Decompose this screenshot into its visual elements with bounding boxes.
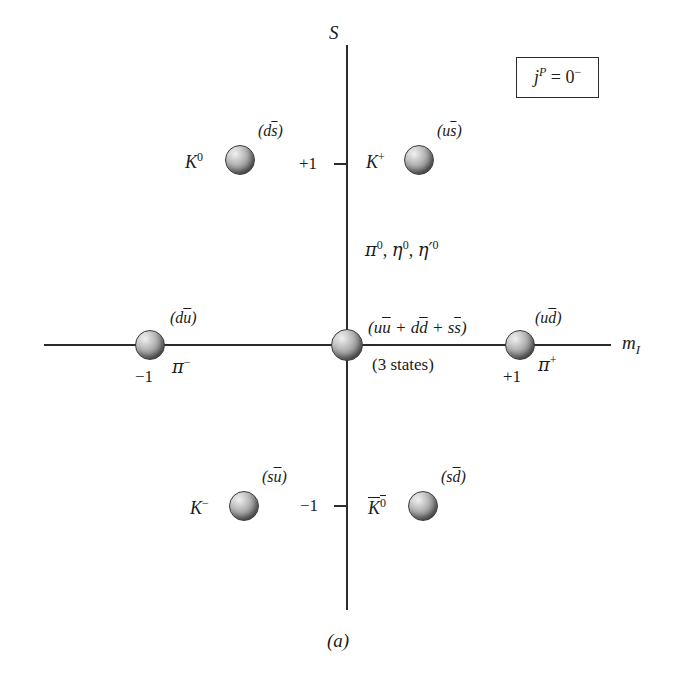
pi-minus-charge: − [184,355,191,369]
particle-marker-k-zero [225,145,255,175]
particle-label-pi-minus: π− [172,355,191,378]
y-tick-label-plus-one: +1 [299,154,317,174]
pi-minus-quark-post: ) [191,309,196,326]
pi-plus-quark-post: ) [556,309,561,326]
jp-parity: − [575,65,582,79]
origin-states-note: (3 states) [372,355,434,375]
eta-prime-charge: 0 [433,238,439,252]
quark-content-pi-minus: (du) [170,309,197,327]
quark-content-origin: (uu + dd + ss) [368,318,467,338]
x-tick-label-plus-one: +1 [503,367,521,387]
k-zero-bar-quark-pre: (s [441,468,453,485]
x-axis-label-main: m [622,332,636,353]
eta-zero-symbol: η [392,239,403,260]
particle-marker-pi-minus [135,330,165,360]
k-minus-quark-bar: u [274,468,282,485]
eta-prime-symbol: η′ [418,239,433,260]
quark-content-k-plus: (us) [437,122,462,140]
origin-quark-dbar: d [419,318,428,337]
origin-quark-close: ) [461,318,467,337]
k-plus-quark-post: ) [457,122,462,139]
strangeness-axis [346,45,348,610]
k-zero-quark-post: ) [278,122,283,139]
pi-minus-quark-pre: (d [170,309,183,326]
particle-marker-origin [331,329,363,361]
k-minus-name: K [190,498,202,518]
origin-quark-sbar: s [454,318,461,337]
particle-marker-k-minus [229,491,259,521]
particle-marker-k-plus [404,145,434,175]
y-tick-plus-one [334,163,347,165]
neutral-states-label: π0, η0, η′0 [365,238,439,261]
figure-caption: (a) [0,630,676,652]
k-minus-quark-post: ) [282,468,287,485]
k-zero-bar-name: K [368,498,380,518]
origin-quark-plus-2: + s [428,318,455,337]
y-tick-minus-one [334,505,347,507]
k-plus-charge: + [378,150,385,164]
y-axis-label: S [329,22,339,44]
k-zero-bar-quark-bar: d [453,468,461,485]
k-zero-charge: 0 [197,150,203,164]
particle-label-k-minus: K− [190,496,209,519]
x-axis-label-subscript: I [636,342,640,357]
pi-minus-name: π [172,356,184,377]
quark-content-pi-plus: (ud) [535,309,562,327]
k-zero-quark-pre: (d [258,122,271,139]
quantum-numbers-box: jP = 0− [516,57,599,98]
x-tick-label-minus-one: −1 [135,367,153,387]
quark-content-k-zero-bar: (sd) [441,468,466,486]
meson-nonet-figure: S mI +1 −1 −1 +1 jP = 0− K0 (ds) K+ (us)… [0,0,676,690]
y-tick-label-minus-one: −1 [300,496,318,516]
quark-content-k-zero: (ds) [258,122,283,140]
particle-label-pi-plus: π+ [538,353,557,376]
pi-zero-symbol: π [365,239,377,260]
pi-plus-name: π [538,354,550,375]
quark-content-k-minus: (su) [262,468,287,486]
particle-label-k-zero-bar: K0 [368,496,386,519]
neutral-sep-2: , [409,240,418,260]
origin-quark-plus-1: + d [391,318,419,337]
origin-quark-open: (u [368,318,382,337]
origin-quark-ubar: u [382,318,391,337]
particle-marker-pi-plus [505,330,535,360]
jp-equals: = 0 [546,67,574,87]
x-axis-label: mI [622,332,640,358]
particle-label-k-zero: K0 [185,150,203,173]
neutral-sep-1: , [383,240,392,260]
k-minus-charge: − [202,496,209,510]
k-plus-quark-pre: (u [437,122,450,139]
k-zero-bar-charge: 0 [380,496,386,510]
particle-marker-k-zero-bar [408,491,438,521]
particle-label-k-plus: K+ [366,150,385,173]
pi-plus-charge: + [550,353,557,367]
k-minus-quark-pre: (s [262,468,274,485]
k-plus-name: K [366,152,378,172]
pi-plus-quark-pre: (u [535,309,548,326]
k-zero-name: K [185,152,197,172]
k-zero-bar-quark-post: ) [461,468,466,485]
